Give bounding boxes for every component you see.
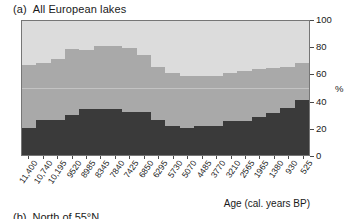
x-axis-tick-label: 7425 (123, 159, 141, 179)
bar-segment-upper (108, 21, 122, 46)
bar-column (223, 21, 237, 155)
y-axis-tick-label: 100 (316, 15, 332, 25)
x-axis-tick-label: 5730 (166, 159, 184, 179)
bar-column (295, 21, 309, 155)
bar-segment-middle (223, 73, 237, 121)
y-axis-tick (310, 47, 314, 48)
x-axis-tick-label: 6295 (152, 159, 170, 179)
chart-panel: (a)All European lakes % 020406080100 11,… (0, 0, 351, 219)
bar-segment-upper (266, 21, 280, 68)
bar-segment-lower (94, 109, 108, 155)
x-axis-title: Age (cal. years BP) (0, 198, 310, 209)
x-axis-tick-label: 5070 (181, 159, 199, 179)
bar-segment-middle (79, 50, 93, 109)
stacked-bar-series (22, 21, 309, 155)
bar-segment-upper (252, 21, 266, 69)
bar-segment-middle (65, 49, 79, 115)
bar-segment-lower (51, 120, 65, 155)
x-axis-tick-label: 3210 (224, 159, 242, 179)
bar-segment-upper (180, 21, 194, 76)
y-axis-tick (310, 20, 314, 21)
bar-segment-lower (137, 112, 151, 155)
bar-segment-upper (194, 21, 208, 76)
bar-column (252, 21, 266, 155)
bar-segment-lower (108, 109, 122, 155)
x-axis-tick-label: 8345 (94, 159, 112, 179)
bar-segment-middle (94, 46, 108, 109)
bar-column (180, 21, 194, 155)
bar-segment-upper (122, 21, 136, 48)
bar-segment-upper (137, 21, 151, 55)
bar-segment-upper (165, 21, 179, 73)
bar-column (65, 21, 79, 155)
next-panel-title-text: North of 55°N (32, 211, 99, 219)
bar-segment-middle (165, 73, 179, 125)
bar-segment-upper (208, 21, 222, 76)
bar-segment-middle (252, 69, 266, 117)
bar-column (194, 21, 208, 155)
bar-segment-middle (295, 63, 309, 101)
y-axis-tick-label: 40 (316, 97, 327, 107)
x-axis-tick-label: 9520 (65, 159, 83, 179)
plot-area (21, 20, 310, 156)
panel-tag: (a) (13, 3, 27, 15)
y-axis-tick-label: 80 (316, 42, 327, 52)
y-axis-tick (310, 156, 314, 157)
bar-segment-middle (208, 76, 222, 126)
next-panel-title: (b)North of 55°N (13, 211, 99, 219)
bar-segment-upper (280, 21, 294, 67)
x-axis-tick-label: 6850 (137, 159, 155, 179)
y-axis-tick-label: 60 (316, 70, 327, 80)
bar-segment-upper (65, 21, 79, 49)
bar-segment-middle (280, 67, 294, 109)
bar-segment-upper (151, 21, 165, 67)
bar-column (137, 21, 151, 155)
bar-segment-lower (122, 112, 136, 155)
bar-column (36, 21, 50, 155)
bar-segment-lower (180, 128, 194, 155)
bar-segment-lower (280, 108, 294, 155)
bar-column (280, 21, 294, 155)
y-axis-tick (310, 129, 314, 130)
bar-segment-lower (223, 121, 237, 155)
bar-segment-upper (295, 21, 309, 63)
bar-column (94, 21, 108, 155)
page-title: (a)All European lakes (13, 3, 126, 15)
bar-segment-middle (237, 71, 251, 122)
bar-segment-upper (36, 21, 50, 63)
bar-segment-lower (252, 117, 266, 155)
x-axis-tick-label: 525 (299, 159, 314, 176)
y-axis-tick (310, 102, 314, 103)
bar-segment-lower (79, 109, 93, 155)
bar-segment-middle (137, 55, 151, 113)
bar-column (79, 21, 93, 155)
y-axis-tick-label: 0 (316, 151, 321, 161)
bar-segment-lower (22, 128, 36, 155)
bar-column (122, 21, 136, 155)
bar-segment-middle (22, 65, 36, 128)
x-axis-tick-label: 930 (284, 159, 299, 176)
y-axis: % 020406080100 (310, 20, 351, 156)
bar-segment-middle (180, 76, 194, 128)
bar-column (151, 21, 165, 155)
bar-segment-lower (151, 120, 165, 155)
bar-column (266, 21, 280, 155)
bar-segment-upper (94, 21, 108, 46)
x-axis-tick-label: 4485 (195, 159, 213, 179)
x-axis-tick-labels: 11,40010,74010,1959520898583457840742568… (21, 159, 310, 195)
bar-segment-middle (122, 48, 136, 112)
bar-segment-upper (79, 21, 93, 50)
bar-segment-lower (165, 126, 179, 155)
bar-segment-lower (237, 121, 251, 155)
bar-segment-lower (36, 120, 50, 155)
y-axis-unit-label: % (335, 83, 343, 94)
bar-segment-middle (36, 63, 50, 121)
bar-segment-upper (22, 21, 36, 65)
bar-column (165, 21, 179, 155)
panel-title-text: All European lakes (33, 3, 127, 15)
bar-segment-upper (237, 21, 251, 71)
bar-column (51, 21, 65, 155)
bar-column (108, 21, 122, 155)
bar-segment-middle (51, 59, 65, 121)
next-panel-tag: (b) (13, 211, 26, 219)
